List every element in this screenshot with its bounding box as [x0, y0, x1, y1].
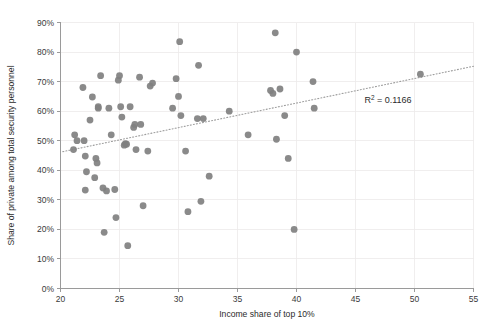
data-point — [245, 131, 252, 138]
data-point — [311, 105, 318, 112]
r-squared-text: R2 = 0.1166 — [364, 94, 411, 105]
data-point — [226, 108, 233, 115]
data-point — [194, 115, 201, 122]
x-tick-label: 55 — [469, 294, 479, 304]
data-point — [82, 187, 89, 194]
data-point — [108, 131, 115, 138]
data-point — [81, 137, 88, 144]
y-tick-label: 50% — [37, 136, 54, 146]
data-point — [200, 115, 207, 122]
data-point — [101, 229, 108, 236]
data-point — [105, 105, 112, 112]
data-point — [136, 74, 143, 81]
data-point — [80, 84, 87, 91]
y-tick-label: 80% — [37, 47, 54, 57]
data-point — [113, 214, 120, 221]
x-tick-label: 35 — [233, 294, 243, 304]
data-point — [140, 202, 147, 209]
data-point — [127, 103, 134, 110]
x-tick-label: 40 — [292, 294, 302, 304]
scatter-plot-svg: 2025303540455055 0%10%20%30%40%50%60%70%… — [0, 0, 495, 335]
data-point — [117, 103, 124, 110]
x-tick-label: 50 — [410, 294, 420, 304]
axes-group — [61, 23, 474, 289]
data-point — [169, 105, 176, 112]
data-point — [176, 38, 183, 45]
data-point — [293, 49, 300, 56]
data-point — [70, 146, 77, 153]
data-point — [195, 62, 202, 69]
data-point — [182, 148, 189, 155]
data-point — [270, 90, 277, 97]
data-point — [144, 148, 151, 155]
data-point — [103, 188, 110, 195]
data-point — [198, 198, 205, 205]
data-point — [137, 121, 144, 128]
x-tick-label: 45 — [351, 294, 361, 304]
x-tick-label: 25 — [115, 294, 125, 304]
y-tick-label: 30% — [37, 195, 54, 205]
data-point — [285, 155, 292, 162]
data-point — [177, 112, 184, 119]
trendline — [63, 66, 474, 151]
data-point — [91, 174, 98, 181]
y-axis-title: Share of private among total security pe… — [6, 65, 16, 245]
y-axis-title-text: Share of private among total security pe… — [6, 65, 16, 245]
data-point — [111, 186, 118, 193]
y-tick-label: 40% — [37, 165, 54, 175]
y-tick-label: 10% — [37, 254, 54, 264]
data-point — [87, 117, 94, 124]
data-point — [173, 75, 180, 82]
y-tick-label: 20% — [37, 224, 54, 234]
data-point — [94, 159, 101, 166]
data-point — [95, 105, 102, 112]
trendline-group — [63, 66, 474, 151]
data-point — [83, 168, 90, 175]
data-point — [310, 78, 317, 85]
data-point — [149, 80, 156, 87]
data-point — [185, 208, 192, 215]
y-tick-label: 70% — [37, 77, 54, 87]
data-point — [417, 71, 424, 78]
x-axis-title: Income share of top 10% — [219, 309, 315, 319]
data-point — [291, 226, 298, 233]
data-point — [97, 72, 104, 79]
data-point — [71, 131, 78, 138]
data-point — [89, 94, 96, 101]
x-tick-label: 20 — [56, 294, 66, 304]
data-point — [175, 93, 182, 100]
scatter-chart-container: 2025303540455055 0%10%20%30%40%50%60%70%… — [0, 0, 495, 335]
data-point — [124, 242, 131, 249]
data-point — [116, 72, 123, 79]
data-point — [277, 86, 284, 93]
y-tick-label: 0% — [42, 284, 55, 294]
data-point — [123, 141, 130, 148]
data-point — [82, 153, 89, 160]
r-squared-annotation: R2 = 0.1166 — [364, 94, 411, 105]
data-point — [273, 136, 280, 143]
data-point — [74, 137, 81, 144]
data-point — [272, 29, 279, 36]
y-tick-label: 60% — [37, 106, 54, 116]
y-tick-labels-group: 0%10%20%30%40%50%60%70%80%90% — [37, 18, 54, 294]
x-axis-title-text: Income share of top 10% — [219, 309, 315, 319]
x-tick-label: 30 — [174, 294, 184, 304]
data-point — [118, 114, 125, 121]
y-tick-label: 90% — [37, 18, 54, 28]
data-point — [133, 146, 140, 153]
data-point — [131, 121, 138, 128]
gridlines-group — [61, 23, 474, 289]
x-tick-labels-group: 2025303540455055 — [56, 294, 479, 304]
data-point — [281, 112, 288, 119]
data-point — [206, 173, 213, 180]
